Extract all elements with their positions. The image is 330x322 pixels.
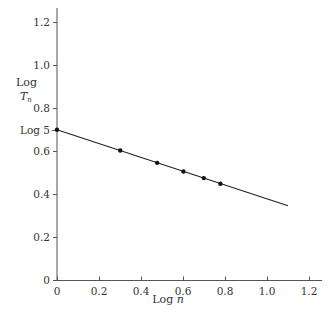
data-point	[202, 176, 206, 180]
fit-line	[57, 130, 288, 206]
y-tick-label: 0.2	[33, 231, 50, 243]
y-tick-label: 1.2	[33, 16, 50, 28]
x-tick-label: 0	[54, 285, 61, 297]
data-point	[181, 169, 185, 173]
data-point	[55, 128, 59, 132]
axes	[56, 8, 322, 281]
x-tick-label: 0.2	[91, 285, 108, 297]
data-point	[155, 161, 159, 165]
y-tick-label: 0.6	[33, 145, 50, 157]
x-axis-title: Log n	[152, 293, 184, 306]
y-axis-title-var: Tn	[20, 90, 32, 104]
data-point	[218, 181, 222, 185]
learning-curve-chart: 00.20.40.60.81.01.2 00.20.40.60.81.01.2 …	[0, 0, 330, 322]
y-ticks: 00.20.40.60.81.01.2	[33, 16, 57, 286]
y-tick-label: 0	[43, 274, 50, 286]
y-tick-label: 1.0	[33, 59, 50, 71]
x-tick-label: 0.4	[133, 285, 150, 297]
plot-area	[55, 128, 288, 206]
y-axis-title-log: Log	[16, 76, 37, 89]
y-tick-label: 0.8	[33, 102, 50, 114]
x-ticks: 00.20.40.60.81.01.2	[54, 277, 318, 298]
data-point	[118, 148, 122, 152]
x-tick-label: 0.8	[217, 285, 234, 297]
x-tick-label: 1.0	[259, 285, 276, 297]
log5-annotation: Log 5	[20, 124, 50, 136]
y-tick-label: 0.4	[33, 188, 50, 200]
x-tick-label: 1.2	[301, 285, 318, 297]
